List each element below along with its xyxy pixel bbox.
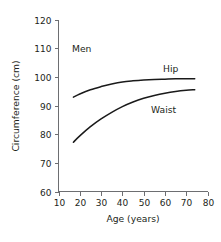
x-tick-label: 60 bbox=[160, 198, 172, 208]
y-tick-label: 80 bbox=[40, 130, 52, 140]
y-tick-label: 110 bbox=[34, 44, 51, 54]
x-tick-label: 50 bbox=[139, 198, 151, 208]
x-axis-title: Age (years) bbox=[106, 213, 159, 224]
y-axis-title: Circumference (cm) bbox=[10, 60, 21, 151]
y-tick-label: 90 bbox=[40, 102, 52, 112]
hip-series-label: Hip bbox=[163, 63, 178, 74]
chart-container: 60708090100110120 1020304050607080 Men H… bbox=[0, 0, 221, 242]
y-tick-label: 100 bbox=[34, 73, 51, 83]
waist-series-label: Waist bbox=[151, 104, 176, 115]
x-tick-label: 30 bbox=[96, 198, 108, 208]
y-tick-label: 60 bbox=[40, 188, 52, 198]
x-tick-label: 80 bbox=[203, 198, 215, 208]
x-tick-label: 70 bbox=[181, 198, 193, 208]
x-tick-label: 20 bbox=[75, 198, 87, 208]
circumference-vs-age-chart: 60708090100110120 1020304050607080 Men H… bbox=[0, 0, 221, 242]
x-tick-label: 10 bbox=[54, 198, 66, 208]
y-tick-label: 120 bbox=[34, 16, 51, 26]
y-tick-label: 70 bbox=[40, 159, 52, 169]
men-group-annotation: Men bbox=[72, 43, 92, 54]
x-tick-label: 40 bbox=[117, 198, 129, 208]
